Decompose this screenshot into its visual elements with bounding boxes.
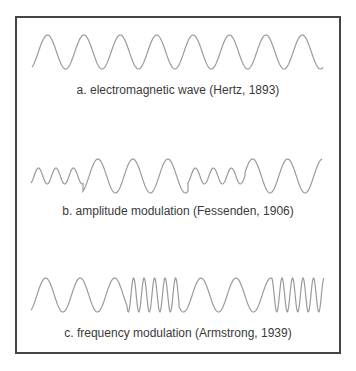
caption-amplitude-modulation: b. amplitude modulation (Fessenden, 1906… [15, 204, 341, 218]
caption-frequency-modulation: c. frequency modulation (Armstrong, 1939… [15, 326, 341, 340]
waves-canvas [0, 0, 356, 371]
caption-electromagnetic-wave: a. electromagnetic wave (Hertz, 1893) [15, 83, 341, 97]
amplitude-modulation-curve [31, 159, 322, 193]
electromagnetic-wave-curve [32, 35, 323, 69]
frequency-modulation-curve [31, 278, 324, 312]
